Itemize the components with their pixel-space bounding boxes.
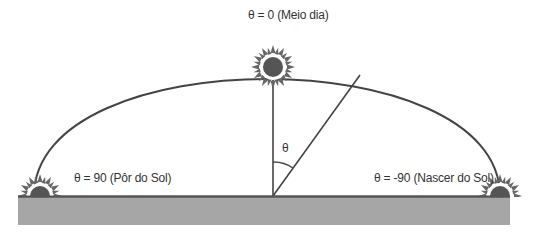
noon-label: θ = 0 (Meio dia) xyxy=(248,8,329,22)
sunset-label: θ = 90 (Pôr do Sol) xyxy=(74,171,171,185)
solar-angle-diagram xyxy=(0,0,543,234)
sun-noon-icon xyxy=(251,45,295,89)
sunrise-label: θ = -90 (Nascer do Sol) xyxy=(374,171,494,185)
ground xyxy=(18,197,510,225)
angle-arc xyxy=(273,162,293,168)
angle-theta-label: θ xyxy=(282,141,288,155)
sun-direction-line xyxy=(273,75,360,196)
